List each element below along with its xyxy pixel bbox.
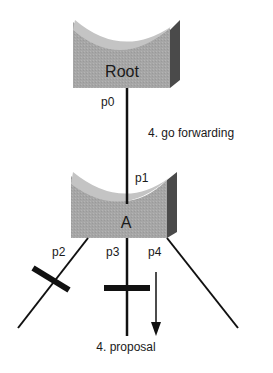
port-label-p4: p4	[148, 245, 162, 259]
proposal-annotation: 4. proposal	[96, 340, 155, 354]
switch-a[interactable]: A	[71, 172, 177, 238]
proposal-arrow-icon	[151, 272, 161, 336]
port-label-p0: p0	[101, 95, 115, 109]
switch-a-side	[167, 172, 177, 238]
go-forwarding-annotation: 4. go forwarding	[148, 126, 234, 140]
port-label-p1: p1	[135, 171, 149, 185]
root-switch-side	[170, 20, 180, 88]
port-label-p3: p3	[106, 245, 120, 259]
root-switch[interactable]: Root	[73, 20, 180, 88]
root-switch-label: Root	[105, 63, 139, 80]
port-label-p2: p2	[52, 245, 66, 259]
switch-a-label: A	[121, 214, 132, 231]
link-p4	[167, 238, 238, 328]
stp-diagram: Root p0 4. go forwarding p1 A p2 p3 p4 4…	[0, 0, 273, 373]
